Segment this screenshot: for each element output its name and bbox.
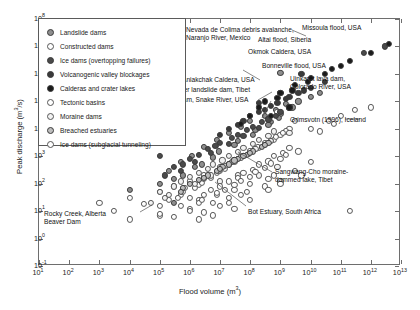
legend-item: Volcanogenic valley blockages bbox=[47, 67, 185, 81]
data-point bbox=[171, 176, 177, 182]
data-point bbox=[201, 209, 207, 215]
legend-marker-icon bbox=[47, 43, 54, 50]
annotation-label: Rocky Creek, Alberta Beaver Dam bbox=[44, 210, 106, 227]
annotation-label: Nevada de Colima debris avalanche, Naran… bbox=[186, 26, 294, 43]
data-point bbox=[295, 98, 301, 104]
data-point bbox=[261, 107, 267, 113]
x-tick bbox=[341, 19, 342, 23]
data-point bbox=[205, 166, 211, 172]
legend-item: Ice dams (subglacial tunneling) bbox=[47, 137, 185, 151]
legend-item: Tectonic basins bbox=[47, 95, 185, 109]
legend-item-label: Moraine dams bbox=[60, 113, 102, 120]
annotation-label: Sangwang-Cho moraine- dammed lake, Tibet bbox=[275, 168, 348, 185]
data-point bbox=[286, 130, 292, 136]
legend-item: Constructed dams bbox=[47, 39, 185, 53]
x-tick bbox=[220, 19, 221, 23]
legend: Landslide damsConstructed damsIce dams (… bbox=[38, 18, 186, 146]
legend-item-label: Ice dams (subglacial tunneling) bbox=[60, 141, 151, 148]
x-tick-label: 105 bbox=[153, 268, 164, 277]
x-tick bbox=[280, 19, 281, 23]
data-point bbox=[166, 191, 172, 197]
x-tick bbox=[160, 260, 161, 264]
legend-item-label: Tectonic basins bbox=[60, 99, 105, 106]
data-point bbox=[157, 189, 163, 195]
legend-item: Ice dams (overtopping failures) bbox=[47, 53, 185, 67]
x-tick-label: 1013 bbox=[393, 268, 407, 277]
annotation-label: Bot Estuary, South Africa bbox=[248, 208, 321, 216]
x-tick bbox=[130, 260, 131, 264]
x-tick bbox=[341, 260, 342, 264]
legend-item-label: Calderas and crater lakes bbox=[60, 85, 135, 92]
annotation-label: Missoula flood, USA bbox=[302, 24, 361, 32]
data-point bbox=[265, 187, 271, 193]
data-point bbox=[111, 208, 117, 214]
data-point bbox=[240, 145, 246, 151]
flood-scatter-figure: 1011021031041051061071081091010101110121… bbox=[0, 0, 420, 310]
data-point bbox=[96, 200, 102, 206]
x-tick-label: 104 bbox=[123, 268, 134, 277]
x-tick bbox=[220, 260, 221, 264]
data-point bbox=[386, 41, 392, 47]
y-tick bbox=[395, 184, 399, 185]
legend-marker-icon bbox=[47, 85, 54, 92]
x-tick bbox=[371, 19, 372, 23]
x-tick-label: 103 bbox=[93, 268, 104, 277]
data-point bbox=[247, 174, 253, 180]
data-point bbox=[217, 203, 223, 209]
x-tick bbox=[69, 260, 70, 264]
x-tick-label: 107 bbox=[213, 268, 224, 277]
data-point bbox=[171, 164, 177, 170]
legend-item: Breached estuaries bbox=[47, 123, 185, 137]
data-point bbox=[277, 70, 283, 76]
data-point bbox=[352, 107, 358, 113]
data-point bbox=[238, 191, 244, 197]
data-point bbox=[240, 153, 246, 159]
annotation-label: Bonneville flood, USA bbox=[262, 62, 326, 70]
y-tick bbox=[395, 74, 399, 75]
data-point bbox=[286, 145, 292, 151]
data-point bbox=[361, 49, 367, 55]
x-tick bbox=[280, 260, 281, 264]
legend-item-label: Ice dams (overtopping failures) bbox=[60, 57, 151, 64]
data-point bbox=[283, 152, 289, 158]
data-point bbox=[162, 172, 168, 178]
legend-item-label: Constructed dams bbox=[60, 43, 114, 50]
data-point bbox=[347, 58, 353, 64]
data-point bbox=[196, 216, 202, 222]
data-point bbox=[126, 195, 132, 201]
data-point bbox=[175, 195, 181, 201]
legend-marker-icon bbox=[47, 71, 54, 78]
x-tick bbox=[190, 19, 191, 23]
y-tick bbox=[395, 129, 399, 130]
data-point bbox=[199, 161, 205, 167]
data-point bbox=[265, 122, 271, 128]
legend-item: Landslide dams bbox=[47, 25, 185, 39]
data-point bbox=[178, 203, 184, 209]
x-tick-label: 109 bbox=[274, 268, 285, 277]
x-tick bbox=[371, 260, 372, 264]
annotation-label: Aniakchak Caldera, USA bbox=[182, 76, 255, 84]
data-point bbox=[307, 126, 313, 132]
x-tick-label: 1010 bbox=[302, 268, 316, 277]
data-point bbox=[171, 183, 177, 189]
data-point bbox=[368, 49, 374, 55]
data-point bbox=[261, 98, 267, 104]
data-point bbox=[244, 189, 250, 195]
legend-item-label: Breached estuaries bbox=[60, 127, 117, 134]
x-tick bbox=[190, 260, 191, 264]
data-point bbox=[256, 125, 262, 131]
data-point bbox=[199, 197, 205, 203]
data-point bbox=[210, 212, 216, 218]
y-tick bbox=[395, 101, 399, 102]
legend-item: Calderas and crater lakes bbox=[47, 81, 185, 95]
y-tick bbox=[395, 266, 399, 267]
annotation-label: Uinkaret lava dam, Colorado River, USA bbox=[290, 75, 351, 92]
x-tick-label: 108 bbox=[244, 268, 255, 277]
data-point bbox=[210, 200, 216, 206]
data-point bbox=[157, 153, 163, 159]
x-tick bbox=[401, 260, 402, 264]
y-tick-label: 100 bbox=[34, 233, 45, 242]
legend-item-label: Landslide dams bbox=[60, 29, 106, 36]
data-point bbox=[307, 159, 313, 165]
data-point bbox=[347, 208, 353, 214]
